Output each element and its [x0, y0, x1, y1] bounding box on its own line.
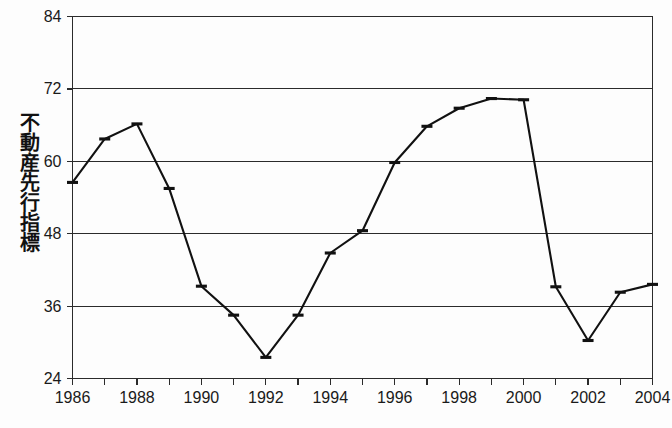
x-tick-label-1992: 1992: [248, 389, 284, 406]
x-tick-label-2004: 2004: [635, 389, 671, 406]
y-tick-label-36: 36: [44, 298, 62, 315]
y-tick-label-48: 48: [44, 225, 62, 242]
plot-frame: [73, 17, 653, 379]
y-tick-label-60: 60: [44, 153, 62, 170]
y-axis-ticks-group: [67, 17, 73, 379]
y-tick-label-72: 72: [44, 80, 62, 97]
x-tick-label-1994: 1994: [312, 389, 348, 406]
y-tick-label-24: 24: [44, 370, 62, 387]
x-tick-label-1986: 1986: [55, 389, 91, 406]
x-tick-label-2002: 2002: [570, 389, 606, 406]
series-line-不動産先行指標: [73, 99, 653, 358]
x-tick-labels-group: 1986198819901992199419961998200020022004: [55, 389, 671, 406]
x-tick-label-1988: 1988: [119, 389, 155, 406]
y-tick-label-84: 84: [44, 8, 62, 25]
chart-container: 不動産先行指標 243648607284 1986198819901992199…: [0, 0, 672, 428]
gridlines-group: [73, 17, 653, 307]
y-tick-labels-group: 243648607284: [44, 8, 62, 387]
x-tick-label-1998: 1998: [441, 389, 477, 406]
x-tick-label-1996: 1996: [377, 389, 413, 406]
data-series-group: [73, 99, 653, 358]
data-markers-group: [67, 99, 658, 358]
line-chart-plot: 243648607284 198619881990199219941996199…: [0, 0, 672, 428]
x-axis-ticks-group: [73, 379, 653, 385]
x-tick-label-1990: 1990: [184, 389, 220, 406]
x-tick-label-2000: 2000: [506, 389, 542, 406]
